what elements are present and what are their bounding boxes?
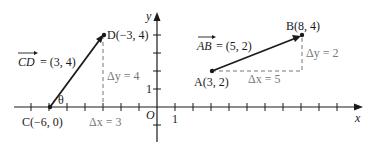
point-c-label: C(−6, 0) <box>22 115 63 129</box>
vector-diagram: x 1 y 1 O θ C(−6, 0) D(−3, 4) CD = (3, 4… <box>0 0 369 147</box>
x-axis: x 1 <box>14 103 363 126</box>
y-axis-arrow-icon <box>154 12 161 21</box>
vector-cd: θ C(−6, 0) D(−3, 4) CD = (3, 4) Δy = 4 Δ… <box>18 28 148 129</box>
ab-dx-label: Δx = 5 <box>248 72 280 86</box>
x-axis-label: x <box>354 111 361 125</box>
point-c <box>48 105 52 109</box>
cd-vector-label: CD = (3, 4) <box>18 51 76 69</box>
cd-vector-components: = (3, 4) <box>40 55 76 69</box>
angle-theta-label: θ <box>58 93 64 107</box>
point-b-label: B(8, 4) <box>286 19 320 33</box>
cd-vector-name: CD <box>18 55 35 69</box>
ab-vector-components: = (5, 2) <box>216 39 252 53</box>
origin-label: O <box>146 108 155 122</box>
point-d-label: D(−3, 4) <box>107 28 148 42</box>
point-d <box>102 33 106 37</box>
vector-ab: A(3, 2) B(8, 4) AB = (5, 2) Δy = 2 Δx = … <box>194 19 338 89</box>
ab-vector-label: AB = (5, 2) <box>196 35 252 53</box>
cd-dy-label: Δy = 4 <box>107 69 139 83</box>
ab-vector-name: AB <box>196 39 212 53</box>
x-axis-arrow-icon <box>354 104 363 111</box>
point-b <box>300 33 304 37</box>
point-a-label: A(3, 2) <box>194 75 229 89</box>
ab-dy-label: Δy = 2 <box>306 46 338 60</box>
cd-dx-label: Δx = 3 <box>89 115 121 129</box>
y-tick-label-1: 1 <box>146 82 152 96</box>
point-a <box>210 69 214 73</box>
x-tick-label-1: 1 <box>172 112 178 126</box>
y-axis-label: y <box>145 9 152 23</box>
